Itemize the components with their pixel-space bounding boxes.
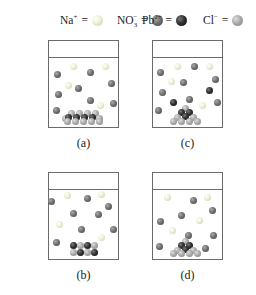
legend-item-chloride: Cl− =: [203, 14, 243, 26]
lead-ion-ball-icon: [84, 242, 91, 249]
na-ion-ball-icon: [204, 194, 211, 201]
na-ion-ball-icon: [164, 194, 171, 201]
beaker-label-c: (c): [152, 136, 223, 151]
legend-symbol: Cl−: [203, 14, 218, 26]
legend-symbol: NO3−: [117, 14, 137, 26]
lead-ion-ball-icon: [77, 249, 84, 256]
legend-symbol: Pb2+: [142, 14, 162, 26]
na-ion-ball-icon: [174, 63, 181, 70]
na-ion-ball-icon: [98, 234, 105, 241]
chloride-ion-ball-icon: [186, 250, 193, 257]
beaker-label-d: (d): [152, 268, 223, 283]
chloride-ion-ball-icon: [194, 118, 201, 125]
nitrate-ion-ball-icon: [159, 89, 166, 96]
na-ion-ball-icon: [56, 221, 63, 228]
nitrate-ion-ball-icon: [180, 79, 187, 86]
liquid-surface-line: [153, 57, 222, 58]
chloride-ion-ball-icon: [232, 15, 243, 26]
nitrate-ion-ball-icon: [108, 80, 115, 87]
chloride-ion-ball-icon: [178, 118, 185, 125]
nitrate-ion-ball-icon: [87, 69, 94, 76]
legend-item-lead: Pb2+ =: [142, 14, 187, 26]
nitrate-ion-ball-icon: [157, 69, 164, 76]
nitrate-ion-ball-icon: [110, 226, 117, 233]
chloride-ion-ball-icon: [70, 249, 77, 256]
chloride-ion-ball-icon: [84, 249, 91, 256]
equals-sign: =: [81, 14, 88, 26]
nitrate-ion-ball-icon: [105, 203, 112, 210]
lead-ion-ball-icon: [170, 99, 177, 106]
liquid-surface-line: [49, 57, 118, 58]
legend-item-sodium: Na+ =: [60, 14, 103, 26]
nitrate-ion-ball-icon: [95, 211, 102, 218]
nitrate-ion-ball-icon: [84, 195, 91, 202]
nitrate-ion-ball-icon: [186, 96, 193, 103]
nitrate-ion-ball-icon: [212, 76, 219, 83]
nitrate-ion-ball-icon: [78, 226, 85, 233]
chloride-ion-ball-icon: [72, 118, 79, 125]
nitrate-ion-ball-icon: [87, 97, 94, 104]
nitrate-ion-ball-icon: [191, 63, 198, 70]
nitrate-ion-ball-icon: [202, 245, 209, 252]
na-ion-ball-icon: [168, 78, 175, 85]
na-ion-ball-icon: [206, 63, 213, 70]
nitrate-ion-ball-icon: [54, 71, 61, 78]
nitrate-ion-ball-icon: [156, 243, 163, 250]
beaker-label-a: (a): [48, 136, 119, 151]
beaker-b: [48, 172, 119, 260]
beaker-c: [152, 40, 223, 128]
na-ion-ball-icon: [65, 82, 72, 89]
lead-ion-ball-icon: [206, 87, 213, 94]
nitrate-ion-ball-icon: [157, 218, 164, 225]
lead-ion-ball-icon: [70, 242, 77, 249]
nitrate-ion-ball-icon: [55, 91, 62, 98]
chloride-ion-ball-icon: [96, 118, 103, 125]
na-ion-ball-icon: [97, 102, 104, 109]
nitrate-ion-ball-icon: [48, 198, 55, 205]
nitrate-ion-ball-icon: [178, 212, 185, 219]
nitrate-ion-ball-icon: [155, 107, 162, 114]
na-ion-ball-icon: [64, 192, 71, 199]
chloride-ion-ball-icon: [88, 118, 95, 125]
na-ion-ball-icon: [98, 191, 105, 198]
chloride-ion-ball-icon: [194, 250, 201, 257]
beaker-d: [152, 172, 223, 260]
liquid-surface-line: [49, 189, 118, 190]
nitrate-ion-ball-icon: [53, 239, 60, 246]
chloride-ion-ball-icon: [186, 118, 193, 125]
na-ion-ball-icon: [70, 63, 77, 70]
chloride-ion-ball-icon: [178, 250, 185, 257]
na-ion-ball-icon: [169, 227, 176, 234]
beaker-a: [48, 40, 119, 128]
nitrate-ion-ball-icon: [214, 99, 221, 106]
nitrate-ion-ball-icon: [75, 85, 82, 92]
chloride-ion-ball-icon: [170, 118, 177, 125]
nitrate-ion-ball-icon: [70, 210, 77, 217]
legend-symbol: Na+: [60, 14, 77, 26]
nitrate-ion-ball-icon: [53, 107, 60, 114]
na-ion-ball-icon: [102, 63, 109, 70]
na-ion-ball-icon: [92, 15, 103, 26]
nitrate-ion-ball-icon: [190, 197, 197, 204]
chloride-ion-ball-icon: [64, 118, 71, 125]
chloride-ion-ball-icon: [77, 242, 84, 249]
chloride-ion-ball-icon: [80, 118, 87, 125]
nitrate-ion-ball-icon: [210, 232, 217, 239]
na-ion-ball-icon: [199, 102, 206, 109]
beaker-label-b: (b): [48, 268, 119, 283]
na-ion-ball-icon: [196, 217, 203, 224]
equals-sign: =: [166, 14, 173, 26]
nitrate-ion-ball-icon: [110, 100, 117, 107]
lead-ion-ball-icon: [176, 15, 187, 26]
chloride-ion-ball-icon: [170, 250, 177, 257]
chloride-ion-ball-icon: [91, 242, 98, 249]
lead-ion-ball-icon: [91, 249, 98, 256]
ion-legend: Na+ = NO3− = Pb2+ = Cl− =: [0, 14, 256, 32]
equals-sign: =: [222, 14, 229, 26]
nitrate-ion-ball-icon: [209, 207, 216, 214]
liquid-surface-line: [153, 189, 222, 190]
